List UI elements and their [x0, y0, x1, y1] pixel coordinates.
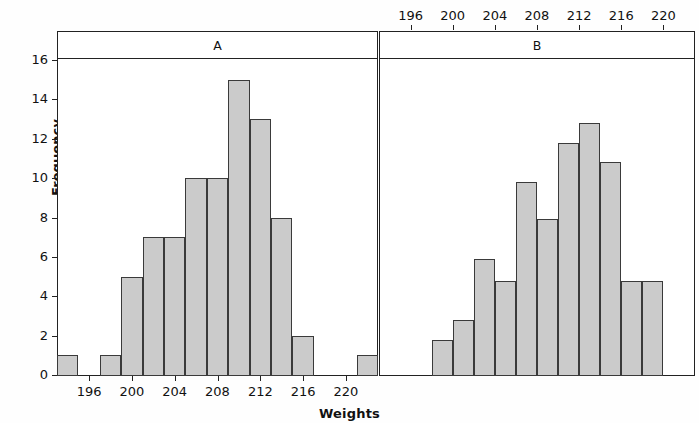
- x-axis-title: Weights: [0, 406, 699, 421]
- bar: [600, 162, 621, 376]
- panel-header-label: B: [533, 38, 542, 53]
- bar: [271, 218, 292, 377]
- x-tick-mark: [579, 25, 580, 30]
- x-tick-mark: [175, 376, 176, 381]
- bar: [121, 277, 142, 376]
- bar: [207, 178, 228, 376]
- bar: [164, 237, 185, 376]
- x-tick-label: 220: [647, 8, 679, 23]
- bar: [453, 320, 474, 376]
- x-tick-label: 204: [159, 384, 191, 399]
- bar: [495, 281, 516, 377]
- bar: [292, 336, 313, 376]
- x-tick-mark: [260, 376, 261, 381]
- x-tick-label: 216: [287, 384, 319, 399]
- x-tick-label: 212: [563, 8, 595, 23]
- x-tick-label: 196: [73, 384, 105, 399]
- bar: [558, 143, 579, 376]
- panel-header-a: A: [57, 31, 378, 59]
- x-tick-mark: [621, 25, 622, 30]
- x-tick-label: 220: [330, 384, 362, 399]
- y-tick-label: 2: [22, 329, 48, 342]
- bar: [432, 340, 453, 376]
- x-tick-mark: [453, 25, 454, 30]
- histogram-figure: FrequencyWeights0246810121416A1962002042…: [0, 0, 699, 423]
- bar: [537, 219, 558, 376]
- x-tick-mark: [132, 376, 133, 381]
- x-tick-label: 200: [116, 384, 148, 399]
- x-tick-label: 196: [395, 8, 427, 23]
- y-tick-label: 10: [22, 171, 48, 184]
- y-tick-label: 16: [22, 53, 48, 66]
- bar: [642, 281, 663, 377]
- bar: [250, 119, 271, 376]
- bar: [621, 281, 642, 377]
- bar: [143, 237, 164, 376]
- bar: [579, 123, 600, 376]
- x-tick-mark: [346, 376, 347, 381]
- x-tick-label: 204: [479, 8, 511, 23]
- y-tick-label: 14: [22, 92, 48, 105]
- y-tick-label: 8: [22, 211, 48, 224]
- bar: [357, 355, 378, 376]
- x-tick-mark: [303, 376, 304, 381]
- x-tick-mark: [89, 376, 90, 381]
- bar: [228, 80, 249, 376]
- bar: [516, 182, 537, 376]
- y-tick-label: 6: [22, 250, 48, 263]
- panel-header-b: B: [379, 31, 695, 59]
- x-tick-label: 212: [244, 384, 276, 399]
- panel-header-label: A: [213, 38, 222, 53]
- x-tick-mark: [663, 25, 664, 30]
- x-tick-mark: [495, 25, 496, 30]
- x-tick-label: 200: [437, 8, 469, 23]
- bar: [100, 355, 121, 376]
- x-tick-mark: [537, 25, 538, 30]
- bar: [57, 355, 78, 376]
- y-tick-label: 0: [22, 368, 48, 381]
- x-tick-mark: [411, 25, 412, 30]
- y-tick-label: 12: [22, 132, 48, 145]
- bar: [185, 178, 206, 376]
- bar: [474, 259, 495, 376]
- x-tick-label: 216: [605, 8, 637, 23]
- x-tick-label: 208: [521, 8, 553, 23]
- x-tick-label: 208: [202, 384, 234, 399]
- y-tick-label: 4: [22, 289, 48, 302]
- x-tick-mark: [218, 376, 219, 381]
